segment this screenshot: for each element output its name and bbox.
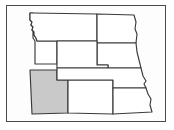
states-group	[30, 13, 152, 114]
state-montana[interactable]	[30, 13, 97, 41]
state-north-dakota[interactable]	[97, 14, 137, 43]
us-states-map	[0, 0, 174, 130]
state-kansas[interactable]	[113, 88, 152, 114]
state-south-dakota[interactable]	[97, 43, 141, 68]
state-colorado[interactable]	[68, 80, 113, 114]
map-figure: Northwestern and Central United States U…	[0, 0, 174, 130]
